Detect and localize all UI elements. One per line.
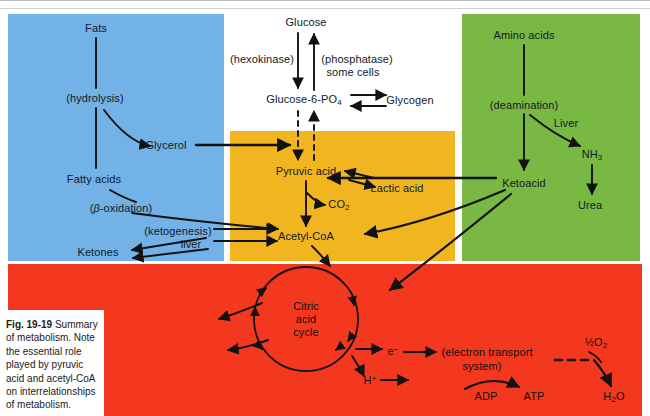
node-glycerol: Glycerol (145, 139, 186, 152)
node-liver: Liver (554, 117, 578, 130)
cycle-tick-3 (353, 300, 354, 305)
arrow-adp-to-atp (465, 381, 519, 389)
node-proton: H+ (364, 374, 377, 387)
node-hexokinase: (hexokinase) (230, 53, 294, 66)
node-beta-oxidation: (β-oxidation) (90, 202, 153, 215)
node-ketones: Ketones (77, 246, 118, 259)
node-lactic-acid: Lactic acid (370, 182, 423, 195)
node-ketoacid: Ketoacid (502, 177, 546, 190)
node-fats: Fats (85, 22, 107, 35)
node-hydrolysis: (hydrolysis) (66, 92, 123, 105)
cycle-tick-4 (348, 337, 351, 341)
node-electron: e− (388, 345, 399, 358)
arrow-fatty-acids-to-beta-oxidation (110, 190, 136, 202)
node-pyruvic-acid: Pyruvic acid (276, 165, 337, 178)
node-co2: CO2 (328, 198, 349, 212)
figure-caption-text: Summary of metabolism. Note the essentia… (6, 319, 98, 410)
node-ketogenesis: (ketogenesis) (144, 225, 211, 238)
arrow-hydrolysis-to-glycerol (104, 110, 150, 146)
figure-caption: Fig. 19-19 Summary of metabolism. Note t… (6, 318, 102, 412)
cycle-tick-2 (336, 347, 340, 350)
cycle-tick-1 (262, 288, 266, 291)
node-atp: ATP (524, 390, 545, 403)
node-some-cells: some cells (327, 66, 380, 79)
node-half-o2: ½O2 (585, 336, 608, 350)
node-urea: Urea (578, 199, 602, 212)
node-amino-acids: Amino acids (493, 29, 554, 42)
arrow-to-h2o (594, 360, 611, 386)
figure-number: Fig. 19-19 (6, 319, 52, 330)
node-electron-transport-system-line2: system) (462, 360, 501, 373)
arrow-ketoacid-to-citric-cycle (390, 194, 511, 290)
node-deamination: (deamination) (490, 99, 559, 112)
node-acetyl-coa: Acetyl-CoA (278, 230, 334, 243)
arrow-cycle-to-proton (352, 356, 364, 376)
node-glycogen: Glycogen (386, 94, 433, 107)
node-glucose: Glucose (285, 16, 326, 29)
node-adp: ADP (475, 390, 498, 403)
arrow-ketoacid-to-acetylcoa (365, 190, 505, 234)
node-ketogenesis-liver: liver (181, 238, 202, 251)
node-nh3: NH3 (582, 148, 603, 162)
node-electron-transport-system-line1: (electron transport (441, 346, 532, 359)
node-fatty-acids: Fatty acids (67, 173, 121, 186)
node-citric-acid-cycle: Citric acid cycle (293, 300, 319, 339)
node-h2o: H2O (603, 390, 624, 404)
metabolism-figure: Fats (hydrolysis) Glycerol Fatty acids (… (0, 0, 650, 416)
node-glucose-6-po4: Glucose-6-PO4 (266, 93, 341, 107)
arrow-acetylcoa-to-citric-cycle (312, 246, 330, 266)
arrow-pyruvic-to-co2 (307, 193, 325, 205)
node-phosphatase: (phosphatase) (321, 53, 393, 66)
